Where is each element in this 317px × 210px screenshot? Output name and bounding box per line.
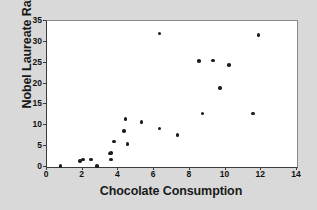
data-point [201, 112, 205, 116]
data-point [197, 59, 201, 63]
x-tick-label: 12 [250, 170, 270, 179]
x-tick-mark [46, 167, 47, 170]
data-point [227, 63, 231, 67]
y-tick-label: 15 [22, 99, 42, 107]
x-tick-label: 14 [286, 170, 306, 179]
data-point [122, 129, 126, 133]
x-tick-label: 2 [72, 170, 92, 179]
data-point [140, 120, 144, 124]
y-tick-label: 35 [22, 16, 42, 24]
x-tick-label: 4 [107, 170, 127, 179]
x-tick-mark [82, 167, 83, 170]
y-tick-label: 5 [22, 141, 42, 149]
x-tick-mark [296, 167, 297, 170]
x-tick-mark [225, 167, 226, 170]
x-tick-label: 10 [215, 170, 235, 179]
data-point [112, 140, 116, 144]
data-point [218, 86, 222, 90]
data-point [95, 164, 99, 168]
data-point [89, 158, 93, 162]
x-tick-mark [153, 167, 154, 170]
x-axis-title: Chocolate Consumption [46, 184, 296, 198]
data-point [158, 32, 162, 36]
data-point [109, 151, 113, 155]
y-tick-label: 25 [22, 58, 42, 66]
y-tick-label: 20 [22, 79, 42, 87]
data-point [59, 164, 63, 168]
data-point [251, 112, 255, 116]
data-point [109, 158, 113, 162]
x-tick-label: 0 [36, 170, 56, 179]
x-tick-mark [260, 167, 261, 170]
x-tick-label: 8 [179, 170, 199, 179]
x-tick-mark [189, 167, 190, 170]
y-tick-label: 10 [22, 120, 42, 128]
plot-area [46, 20, 298, 168]
y-tick-label: 0 [22, 162, 42, 170]
x-tick-mark [117, 167, 118, 170]
x-tick-label: 6 [143, 170, 163, 179]
data-point [158, 127, 162, 131]
data-point [126, 142, 130, 146]
data-point [257, 33, 261, 37]
y-tick-label: 30 [22, 37, 42, 45]
data-point [176, 133, 180, 137]
scatter-chart-figure: Nobel Laureate Rate 05101520253035 02468… [0, 0, 317, 210]
data-point [211, 59, 215, 63]
data-point [124, 117, 128, 121]
data-point [81, 158, 85, 162]
